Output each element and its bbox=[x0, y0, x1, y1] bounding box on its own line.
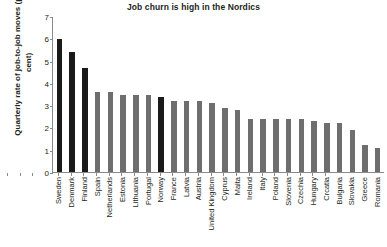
bar[interactable] bbox=[375, 148, 381, 172]
x-tick-label: Netherlands bbox=[107, 177, 115, 217]
x-tick-slot bbox=[65, 173, 78, 176]
x-tick-label: Spain bbox=[94, 177, 102, 196]
x-tick-mark bbox=[300, 173, 301, 176]
bar[interactable] bbox=[184, 101, 190, 172]
chart-figure: Job churn is high in the Nordics Quarter… bbox=[0, 0, 387, 247]
x-tick-slot bbox=[128, 173, 141, 176]
bar[interactable] bbox=[133, 95, 139, 173]
bar[interactable] bbox=[146, 95, 152, 173]
x-label-slot: Bulgaria bbox=[333, 177, 346, 247]
bar-slot bbox=[193, 17, 206, 172]
x-tick-label: Sweden bbox=[56, 177, 64, 204]
bar-slot bbox=[155, 17, 168, 172]
bar[interactable] bbox=[82, 68, 88, 172]
bar[interactable] bbox=[158, 97, 164, 172]
x-label-slot: Lithuania bbox=[129, 177, 142, 247]
chart-title: Job churn is high in the Nordics bbox=[0, 2, 387, 12]
y-tick-label: 1 bbox=[45, 146, 49, 155]
x-label-slot: Cyprus bbox=[219, 177, 232, 247]
x-tick-label: Bulgaria bbox=[336, 177, 344, 205]
x-tick-mark bbox=[262, 173, 263, 176]
x-label-slot: Spain bbox=[91, 177, 104, 247]
x-tick-label: Greece bbox=[361, 177, 369, 202]
x-label-slot: Austria bbox=[193, 177, 206, 247]
plot-area: 01234567 bbox=[52, 17, 384, 173]
bar[interactable] bbox=[260, 119, 266, 172]
x-tick-label: Hungary bbox=[310, 177, 318, 205]
x-tick-mark bbox=[109, 173, 110, 176]
bar-slot bbox=[269, 17, 282, 172]
x-tick-mark bbox=[121, 173, 122, 176]
x-label-slot: Poland bbox=[269, 177, 282, 247]
bar[interactable] bbox=[273, 119, 279, 172]
y-tick-label: 3 bbox=[45, 102, 49, 111]
x-tick-label: Norway bbox=[157, 177, 165, 202]
x-tick-label: Portugal bbox=[145, 177, 153, 205]
x-tick-slot bbox=[205, 173, 218, 176]
bar[interactable] bbox=[171, 101, 177, 172]
x-tick-slot bbox=[14, 173, 27, 176]
x-label-slot: Malta bbox=[231, 177, 244, 247]
x-tick-slot bbox=[294, 173, 307, 176]
y-tick-label: 5 bbox=[45, 57, 49, 66]
x-tick-mark bbox=[185, 173, 186, 176]
x-tick-mark bbox=[274, 173, 275, 176]
x-tick-mark bbox=[198, 173, 199, 176]
bar-slot bbox=[78, 17, 91, 172]
bar[interactable] bbox=[197, 101, 203, 172]
bar[interactable] bbox=[69, 52, 75, 172]
x-label-slot: Italy bbox=[257, 177, 270, 247]
bar-slot bbox=[359, 17, 372, 172]
bar[interactable] bbox=[299, 119, 305, 172]
x-tick-label: Malta bbox=[234, 177, 242, 195]
bar[interactable] bbox=[222, 108, 228, 172]
y-tick-label: 2 bbox=[45, 124, 49, 133]
bar-slot bbox=[206, 17, 219, 172]
x-label-slot: Greece bbox=[359, 177, 372, 247]
x-tick-label: Slovenia bbox=[285, 177, 293, 206]
x-tick-label: Finland bbox=[81, 177, 89, 202]
x-tick-label: Slovakia bbox=[349, 177, 357, 205]
x-tick-label: Italy bbox=[259, 177, 267, 191]
bar-slot bbox=[168, 17, 181, 172]
x-label-slot: Slovenia bbox=[282, 177, 295, 247]
x-tick-label: Estonia bbox=[119, 177, 127, 202]
x-tick-mark bbox=[71, 173, 72, 176]
x-label-slot: Finland bbox=[78, 177, 91, 247]
x-tick-mark bbox=[223, 173, 224, 176]
bar[interactable] bbox=[120, 95, 126, 173]
bar[interactable] bbox=[108, 92, 114, 172]
x-tick-slot bbox=[39, 173, 52, 176]
x-tick-slot bbox=[192, 173, 205, 176]
bar[interactable] bbox=[209, 103, 215, 172]
bar-slot bbox=[333, 17, 346, 172]
bar-series bbox=[53, 17, 384, 172]
bar[interactable] bbox=[95, 92, 101, 172]
bar[interactable] bbox=[248, 119, 254, 172]
y-tick-label: 4 bbox=[45, 79, 49, 88]
bar-slot bbox=[66, 17, 79, 172]
x-label-slot: Hungary bbox=[308, 177, 321, 247]
x-tick-slot bbox=[307, 173, 320, 176]
bar-slot bbox=[371, 17, 384, 172]
x-label-slot: Latvia bbox=[180, 177, 193, 247]
bar-slot bbox=[346, 17, 359, 172]
x-label-slot: Crcatia bbox=[320, 177, 333, 247]
bar[interactable] bbox=[362, 145, 368, 172]
bar[interactable] bbox=[57, 39, 63, 172]
bar[interactable] bbox=[286, 119, 292, 172]
y-axis-title: Quarterly rate of job-to-job moves (per … bbox=[13, 0, 34, 138]
bar[interactable] bbox=[350, 130, 356, 172]
x-label-slot: Denmark bbox=[66, 177, 79, 247]
x-tick-slot bbox=[256, 173, 269, 176]
bar[interactable] bbox=[311, 121, 317, 172]
x-tick-mark bbox=[96, 173, 97, 176]
x-label-slot: Ireland bbox=[244, 177, 257, 247]
x-label-slot: France bbox=[168, 177, 181, 247]
x-tick-mark bbox=[325, 173, 326, 176]
bar[interactable] bbox=[337, 123, 343, 172]
bar[interactable] bbox=[324, 123, 330, 172]
bar[interactable] bbox=[235, 110, 241, 172]
x-tick-label: Poland bbox=[272, 177, 280, 200]
bar-slot bbox=[104, 17, 117, 172]
